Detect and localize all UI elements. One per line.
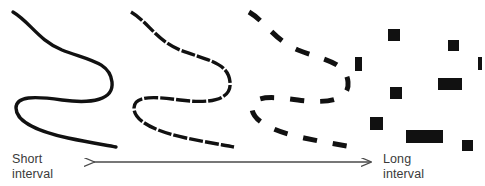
scatter-block — [406, 130, 443, 143]
scatter-block — [370, 117, 383, 130]
panel-continuous-group — [13, 12, 116, 147]
scatter-block — [438, 78, 462, 90]
axis-label-long-interval: Long interval — [383, 152, 424, 182]
scatter-block — [388, 29, 400, 41]
scatter-block — [448, 40, 459, 51]
panel-fragmented-group — [249, 12, 352, 147]
wave-path-fragmented — [249, 12, 352, 147]
scatter-block — [355, 57, 362, 71]
panel-slightly-fragmented-group — [131, 12, 234, 147]
scatter-block — [390, 87, 402, 99]
panel-scattered-group — [355, 29, 482, 151]
figure-root: Short interval Long interval — [0, 0, 485, 186]
wave-path-slightly-fragmented — [131, 12, 234, 147]
wave-path-continuous — [13, 12, 116, 147]
wave-panels — [0, 0, 485, 152]
axis-label-short-interval: Short interval — [12, 152, 53, 182]
scatter-block — [478, 57, 482, 70]
